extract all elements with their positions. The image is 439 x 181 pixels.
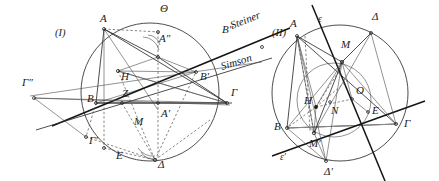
label-point-gamma-1: Γ <box>230 86 238 98</box>
chord-m-b-2 <box>287 62 342 128</box>
label-line-epsilon-2: ε <box>318 14 322 24</box>
dashed-delta-arc-1 <box>155 120 210 160</box>
label-point-m-2: M <box>340 38 351 50</box>
label-point-h-1: H <box>120 70 130 82</box>
label-line-epsilon-prime-2: ε′ <box>280 152 287 162</box>
label-point-b-1: B <box>87 92 94 104</box>
steiner-line-1 <box>52 28 290 126</box>
label-point-delta-2: Δ <box>371 10 378 22</box>
label-point-gamma-prime-1: Γ′ <box>88 134 98 146</box>
label-point-a-double-prime-1: A″ <box>158 32 171 44</box>
label-point-m-1: M <box>133 115 144 127</box>
label-steiner-line: Steiner <box>228 8 262 31</box>
chord-a-m-2 <box>297 36 342 62</box>
label-point-b-2: B <box>274 120 281 132</box>
label-point-a-1: A <box>99 12 107 24</box>
circumcircle-1 <box>81 23 219 161</box>
label-point-o-2: O <box>356 84 364 96</box>
vertex-dot-h-2 <box>314 105 318 109</box>
dashed-h-npcirc-2 <box>316 80 348 107</box>
vertex-dot-b2-1 <box>261 46 264 49</box>
label-point-b-prime-1: B′ <box>200 70 210 82</box>
dashed-b-gammaprime-1 <box>86 103 96 137</box>
label-point-delta-prime-2: Δ′ <box>323 165 333 177</box>
label-point-e-1: E <box>115 149 123 161</box>
label-point-gamma-2: Γ <box>403 117 411 129</box>
label-point-theta-1: Θ <box>160 2 168 14</box>
panel-one-caption: (I) <box>55 27 66 39</box>
label-point-n-2: N <box>330 104 339 116</box>
panel-two-caption: (II) <box>272 27 286 39</box>
label-point-h-2: H <box>303 94 313 106</box>
chord-a-a2-1 <box>104 29 158 57</box>
label-point-z-1: Z <box>122 87 129 99</box>
line-epsilon-prime-2 <box>272 101 425 156</box>
label-point-e-2: E <box>371 104 379 116</box>
vertex-dot-n-2 <box>329 101 332 104</box>
label-point-gamma-double-prime-1: Γ″ <box>21 76 33 88</box>
label-point-m-prime-2: M′ <box>308 137 321 149</box>
side-b-gamma-2 <box>287 124 398 128</box>
figure-page: (I) A Θ A″ B″ H Z B B′ Γ A′ M E Δ Γ′ Γ″ … <box>0 0 439 181</box>
dashed-a-theta-1 <box>104 29 160 32</box>
geometry-figure-panel-one: (I) A Θ A″ B″ H Z B B′ Γ A′ M E Δ Γ′ Γ″ … <box>0 0 439 181</box>
label-point-a-prime-1: A′ <box>160 107 171 119</box>
dashed-z-delta-1 <box>122 103 155 160</box>
label-point-a-2: A <box>289 17 297 29</box>
label-point-delta-1: Δ <box>157 158 164 170</box>
